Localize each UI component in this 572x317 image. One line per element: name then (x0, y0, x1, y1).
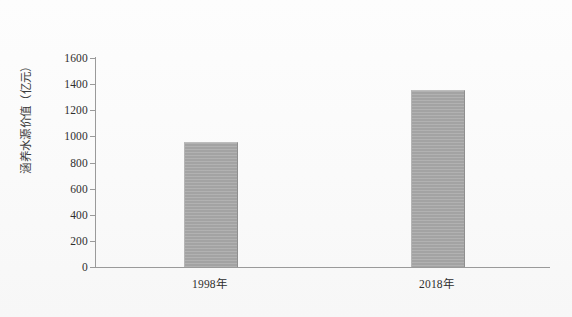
y-tick-label: 1600 (64, 52, 88, 64)
y-axis-title: 涵养水源价值（亿元） (14, 2, 36, 232)
y-tick-mark (90, 110, 96, 111)
y-tick-mark (90, 136, 96, 137)
y-tick-label: 600 (70, 183, 88, 195)
y-tick-mark (90, 84, 96, 85)
y-tick-label: 400 (70, 209, 88, 221)
y-tick-label: 1400 (64, 78, 88, 90)
bar-2018年 (411, 90, 465, 267)
y-tick-mark (90, 241, 96, 242)
y-tick-label: 200 (70, 235, 88, 247)
x-axis-label-2018年: 2018年 (397, 275, 477, 291)
bar-1998年 (184, 142, 238, 267)
y-tick-label: 1000 (64, 130, 88, 142)
bar-chart-figure: 涵养水源价值（亿元） 02004006008001000120014001600… (0, 0, 572, 317)
y-tick-mark (90, 215, 96, 216)
y-tick-label: 800 (70, 157, 88, 169)
x-axis-line (96, 267, 550, 268)
y-tick-mark (90, 267, 96, 268)
plot-area: 02004006008001000120014001600 (96, 58, 550, 267)
y-tick-label: 1200 (64, 104, 88, 116)
y-tick-label: 0 (82, 261, 88, 273)
y-tick-mark (90, 163, 96, 164)
y-tick-mark (90, 189, 96, 190)
x-axis-label-1998年: 1998年 (170, 275, 250, 291)
y-tick-mark (90, 58, 96, 59)
